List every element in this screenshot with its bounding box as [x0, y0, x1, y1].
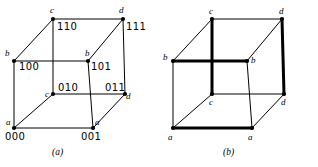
cube-edge-thin [88, 19, 123, 61]
cube-vertex-dot [210, 92, 214, 96]
vertex-letter-a: a [95, 118, 100, 127]
cube-vertex-dot [280, 17, 284, 21]
cube-edge-thin [252, 94, 284, 128]
cube-vertex-dot [12, 59, 16, 63]
vertex-code-100: 100 [19, 62, 39, 72]
cube-edge-bold [282, 19, 284, 94]
vertex-letter-a: a [6, 118, 11, 127]
vertex-letter-b: b [5, 49, 10, 58]
vertex-letter-a: a [248, 133, 253, 142]
cube-drawing-b [159, 0, 318, 167]
cube-vertex-dot [86, 59, 90, 63]
vertex-letter-c: c [50, 6, 54, 15]
vertex-letter-c: c [45, 90, 49, 99]
panel-a-caption: (a) [52, 148, 63, 158]
cube-edge-thin [173, 94, 212, 128]
vertex-code-000: 000 [5, 132, 25, 142]
cube-vertex-dot [171, 59, 175, 63]
vertex-code-111: 111 [126, 22, 146, 32]
vertex-letter-d: d [281, 98, 286, 107]
cube-vertex-dot [171, 126, 175, 130]
cube-vertex-dot [250, 126, 254, 130]
panel-a: a000a001b100b101c010d011c110d111 (a) [0, 0, 159, 167]
vertex-letter-c: c [209, 7, 213, 16]
vertex-letter-b: b [85, 49, 90, 58]
cube-vertex-dot [12, 126, 16, 130]
cube-vertex-dot [210, 17, 214, 21]
vertex-letter-d: d [279, 7, 284, 16]
cube-vertex-dot [282, 92, 286, 96]
vertex-letter-b: b [251, 56, 256, 65]
vertex-letter-c: c [209, 98, 213, 107]
cube-edge-thin [14, 19, 53, 61]
cube-edge-thin [173, 19, 212, 61]
vertex-code-110: 110 [57, 22, 77, 32]
vertex-letter-b: b [163, 53, 168, 62]
vertex-letter-d: d [119, 6, 124, 15]
vertex-code-101: 101 [91, 62, 111, 72]
panel-b: aabbcdcd (b) [159, 0, 318, 167]
panel-b-caption: (b) [223, 148, 234, 158]
cube-vertex-dot [245, 59, 249, 63]
vertex-code-001: 001 [81, 132, 101, 142]
cube-vertex-dot [51, 92, 55, 96]
cube-edge-thin [14, 94, 53, 128]
cube-vertex-dot [51, 17, 55, 21]
vertex-code-011: 011 [105, 83, 125, 93]
vertex-letter-d: d [126, 92, 131, 101]
cube-vertex-dot [121, 17, 125, 21]
vertex-code-010: 010 [58, 83, 78, 93]
vertex-letter-a: a [168, 133, 173, 142]
figure-root: a000a001b100b101c010d011c110d111 (a) aab… [0, 0, 318, 167]
